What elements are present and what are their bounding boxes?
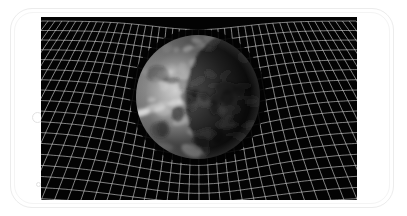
phone-screen: Earth bending the fabric of spacetime (41, 17, 357, 200)
grid-line-vertical (41, 22, 90, 201)
earth-globe (128, 29, 279, 168)
grid-line-vertical (266, 24, 322, 200)
grid-line-vertical (41, 21, 55, 200)
grid-line-vertical (342, 21, 357, 200)
grid-line-vertical (356, 21, 357, 200)
page: Earth bending the fabric of spacetime (0, 0, 407, 216)
grid-line-vertical (294, 22, 357, 200)
grid-line-vertical (301, 22, 357, 200)
spacetime-illustration (41, 17, 357, 200)
grid-line-vertical (41, 21, 83, 200)
grid-line-vertical (308, 22, 357, 201)
grid-line-vertical (50, 23, 117, 200)
grid-line-vertical (259, 25, 309, 201)
grid-line-vertical (41, 22, 104, 200)
grid-line-vertical (41, 21, 76, 200)
grid-line-vertical (322, 21, 357, 200)
grid-line-vertical (41, 22, 97, 200)
grid-line-vertical (41, 21, 48, 200)
grid-line-horizontal (41, 21, 356, 30)
grid-line-vertical (77, 24, 132, 200)
earth-atmosphere (136, 35, 260, 159)
